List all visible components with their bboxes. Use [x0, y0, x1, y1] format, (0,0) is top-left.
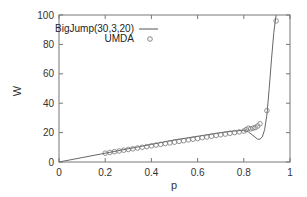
x-tick-label: 0.6	[191, 167, 205, 178]
data-point	[186, 138, 191, 143]
y-axis-label: W	[11, 85, 23, 96]
data-point	[191, 137, 196, 142]
legend-label-umda: UMDA	[105, 33, 135, 44]
chart-canvas: 00.20.40.60.81020406080100 p W BigJump(3…	[0, 0, 307, 197]
x-tick-label: 1	[287, 167, 293, 178]
series-layer	[59, 15, 278, 162]
data-point	[172, 140, 177, 145]
data-point	[214, 133, 219, 138]
data-point	[223, 132, 228, 137]
y-tick-label: 60	[43, 68, 55, 79]
data-point	[177, 139, 182, 144]
data-point	[181, 138, 186, 143]
y-tick-label: 0	[48, 157, 54, 168]
y-tick-label: 80	[43, 39, 55, 50]
legend: BigJump(30,3,20) UMDA	[55, 23, 158, 44]
x-tick-label: 0.2	[98, 167, 112, 178]
data-point	[205, 135, 210, 140]
y-tick-label: 100	[37, 10, 54, 21]
series-line-bigjump	[59, 15, 276, 162]
data-point	[218, 133, 223, 138]
y-tick-label: 40	[43, 98, 55, 109]
data-point	[168, 141, 173, 146]
x-axis-label: p	[171, 179, 177, 191]
data-point	[195, 136, 200, 141]
legend-circle-symbol	[148, 37, 153, 42]
y-tick-label: 20	[43, 127, 55, 138]
data-point	[274, 19, 279, 24]
data-point	[140, 145, 145, 150]
data-point	[200, 135, 205, 140]
x-tick-label: 0.4	[144, 167, 158, 178]
data-point	[135, 146, 140, 151]
x-tick-label: 0.8	[237, 167, 251, 178]
ticks: 00.20.40.60.81020406080100	[37, 10, 293, 179]
data-point	[209, 134, 214, 139]
data-point	[131, 147, 136, 152]
x-tick-label: 0	[56, 167, 62, 178]
